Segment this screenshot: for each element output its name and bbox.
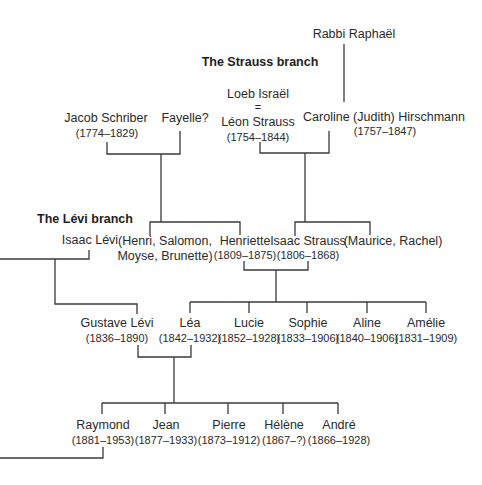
- person-isaac-levi: Isaac Lévi: [62, 233, 118, 247]
- person-rabbi-raphael: Rabbi Raphaël: [313, 27, 396, 41]
- siblings-line-2: Moyse, Brunette): [117, 249, 212, 263]
- person-helene: Hélène (1867–?): [262, 418, 306, 446]
- person-name: Raymond: [76, 418, 130, 432]
- person-dates: (1833–1906): [277, 332, 339, 344]
- person-name: Gustave Lévi: [81, 316, 154, 330]
- line-isaac-levi-to-gustave: [55, 259, 137, 314]
- person-aline: Aline (1840–1906): [336, 316, 398, 344]
- person-name: André: [322, 418, 355, 432]
- generation-4-row: Raymond (1881–1953) Jean (1877–1933) Pie…: [72, 418, 370, 446]
- person-name: Lucie: [234, 316, 264, 330]
- person-caroline-hirschmann: Caroline (Judith) Hirschmann (1757–1847): [303, 110, 465, 137]
- person-gustave-levi: Gustave Lévi (1836–1890): [81, 316, 154, 344]
- person-dates: (1831–1909): [395, 332, 457, 344]
- person-name: Pierre: [212, 418, 245, 432]
- person-name: Léa: [180, 316, 201, 330]
- person-dates: (1806–1868): [277, 249, 339, 261]
- person-jacob-schriber: Jacob Schriber (1774–1829): [64, 111, 147, 139]
- person-name: Jean: [152, 418, 179, 432]
- person-leon-strauss: Loeb Israël = Léon Strauss (1754–1844): [221, 87, 295, 143]
- person-raymond: Raymond (1881–1953): [72, 418, 134, 446]
- line-isaac-levi-ancestry: [0, 250, 89, 259]
- person-dates: (1840–1906): [336, 332, 398, 344]
- person-lea: Léa (1842–1932): [159, 316, 221, 344]
- person-dates: (1866–1928): [308, 434, 370, 446]
- schriber-siblings: (Henri, Salomon, Moyse, Brunette): [117, 234, 212, 263]
- person-name: Aline: [353, 316, 381, 330]
- person-dates: (1836–1890): [86, 332, 148, 344]
- person-name: Jacob Schriber: [64, 111, 147, 125]
- siblings-line-1: (Henri, Salomon,: [118, 234, 212, 248]
- person-dates: (1774–1829): [76, 127, 138, 139]
- person-dates: (1873–1912): [198, 434, 260, 446]
- person-pierre: Pierre (1873–1912): [198, 418, 260, 446]
- person-dates: (1842–1932): [159, 332, 221, 344]
- heading-strauss-branch: The Strauss branch: [202, 55, 319, 69]
- strauss-siblings: (Maurice, Rachel): [344, 234, 443, 248]
- person-jean: Jean (1877–1933): [135, 418, 197, 446]
- person-dates: (1867–?): [262, 434, 306, 446]
- person-name: Sophie: [289, 316, 328, 330]
- person-name: Amélie: [407, 316, 445, 330]
- bracket-henriette-isaac: [244, 261, 308, 270]
- person-sophie: Sophie (1833–1906): [277, 316, 339, 344]
- person-fayelle: Fayelle?: [161, 111, 208, 125]
- person-alias: Loeb Israël: [227, 87, 289, 101]
- person-andre: André (1866–1928): [308, 418, 370, 446]
- line-raymond-descendants: [0, 447, 103, 458]
- person-amelie: Amélie (1831–1909): [395, 316, 457, 344]
- person-dates: (1754–1844): [227, 131, 289, 143]
- person-dates: (1809–1875): [214, 249, 276, 261]
- person-dates: (1757–1847): [354, 125, 416, 137]
- person-isaac-strauss: Isaac Strauss (1806–1868): [270, 234, 346, 261]
- person-dates: (1877–1933): [135, 434, 197, 446]
- person-lucie: Lucie (1852–1928): [218, 316, 280, 344]
- person-dates: (1852–1928): [218, 332, 280, 344]
- person-name: Henriette: [220, 234, 271, 248]
- person-name: Hélène: [264, 418, 304, 432]
- person-name: Léon Strauss: [221, 115, 295, 129]
- generation-3-row: Gustave Lévi (1836–1890) Léa (1842–1932)…: [81, 316, 458, 344]
- bracket-gustave-lea: [138, 345, 191, 357]
- heading-levi-branch: The Lévi branch: [37, 212, 133, 226]
- family-tree-diagram: The Strauss branch The Lévi branch Rabbi…: [0, 0, 482, 485]
- person-dates: (1881–1953): [72, 434, 134, 446]
- equals-sign: =: [255, 101, 261, 113]
- person-name: Caroline (Judith) Hirschmann: [303, 110, 465, 124]
- person-name: Isaac Strauss: [270, 234, 346, 248]
- person-henriette: Henriette (1809–1875): [214, 234, 276, 261]
